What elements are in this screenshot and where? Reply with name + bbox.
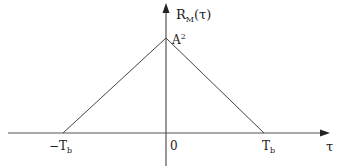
peak-label: A2 xyxy=(172,33,186,46)
x-axis-label: τ xyxy=(326,140,333,153)
y-axis-label: RM(τ) xyxy=(176,8,211,24)
tau-axis-arrow-icon xyxy=(320,130,330,137)
tick-label-origin: 0 xyxy=(170,140,178,152)
r-axis-arrow-icon xyxy=(163,3,170,13)
triangle-curve xyxy=(63,38,264,133)
tick-label-tb: Tb xyxy=(262,140,275,155)
tick-label-neg-tb: −Tb xyxy=(49,140,72,155)
